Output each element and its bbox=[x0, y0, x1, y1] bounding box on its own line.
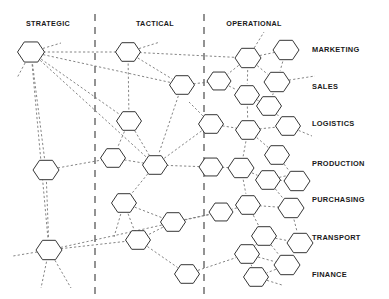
hexagon-node-n10[interactable] bbox=[161, 213, 186, 232]
hexagon-nodes bbox=[18, 40, 314, 286]
stub-edge-s8 bbox=[254, 32, 264, 48]
edge-n10-n11 bbox=[148, 227, 163, 234]
stub-edge-s10 bbox=[299, 130, 312, 136]
hexagon-node-n11[interactable] bbox=[126, 231, 151, 250]
edge-n20-n22 bbox=[257, 138, 269, 148]
hexagon-node-n23[interactable] bbox=[199, 158, 223, 176]
hexagon-node-n22[interactable] bbox=[265, 146, 290, 165]
edge-n1-n3 bbox=[32, 64, 48, 238]
edge-n5-n15 bbox=[193, 82, 208, 84]
edge-n7-n8 bbox=[124, 160, 143, 163]
edge-n1-n6 bbox=[41, 59, 119, 114]
edge-n10-n29 bbox=[184, 214, 210, 219]
edge-n24-n25 bbox=[252, 173, 258, 175]
edge-n4-n13 bbox=[139, 53, 236, 58]
stub-edge-s1 bbox=[43, 43, 61, 48]
stub-edge-s7 bbox=[114, 214, 121, 237]
edge-n8-n23 bbox=[166, 165, 199, 166]
edge-n6-n7 bbox=[118, 132, 125, 148]
hexagon-node-n21[interactable] bbox=[276, 117, 301, 136]
hexagon-node-n28[interactable] bbox=[278, 198, 304, 217]
hexagon-node-n13[interactable] bbox=[235, 48, 261, 67]
hexagon-node-n32[interactable] bbox=[235, 245, 260, 264]
hexagon-node-n20[interactable] bbox=[236, 121, 261, 140]
hexagon-node-n3[interactable] bbox=[36, 240, 62, 259]
edge-n27-n29 bbox=[232, 208, 237, 209]
hexagon-node-n16[interactable] bbox=[264, 72, 290, 91]
hexagon-node-n4[interactable] bbox=[116, 43, 141, 62]
hexagon-node-n30[interactable] bbox=[252, 227, 277, 246]
edge-n5-n8 bbox=[159, 96, 179, 154]
edge-n14-n16 bbox=[280, 62, 283, 71]
edge-n33-n34 bbox=[267, 269, 276, 273]
row-labels: MARKETINGSALESLOGISTICSPRODUCTIONPURCHAS… bbox=[312, 45, 365, 279]
hexagon-node-n26[interactable] bbox=[284, 171, 310, 190]
stub-edge-s12 bbox=[267, 280, 282, 285]
hexagon-node-n17[interactable] bbox=[235, 86, 260, 105]
edge-n20-n21 bbox=[259, 127, 276, 129]
row-label-production: PRODUCTION bbox=[312, 159, 365, 168]
column-label-tactical: TACTICAL bbox=[136, 19, 174, 28]
hexagon-node-n33[interactable] bbox=[274, 255, 300, 274]
edge-n13-n15 bbox=[228, 65, 239, 74]
edge-n27-n28 bbox=[259, 206, 279, 207]
edge-n4-n6 bbox=[128, 64, 129, 110]
edge-n13-n14 bbox=[260, 52, 275, 55]
hexagon-node-n24[interactable] bbox=[228, 158, 254, 177]
hexagon-node-n31[interactable] bbox=[287, 233, 313, 252]
stub-edge-s5 bbox=[55, 260, 71, 288]
edge-n1-n5 bbox=[43, 55, 171, 83]
edge-n18-n21 bbox=[277, 114, 280, 117]
hexagon-node-n25[interactable] bbox=[256, 171, 281, 190]
row-label-transport: TRANSPORT bbox=[312, 233, 361, 242]
edge-n15-n17 bbox=[229, 86, 237, 90]
hexagon-node-n6[interactable] bbox=[117, 112, 142, 131]
hexagon-node-n27[interactable] bbox=[236, 196, 261, 215]
hexagon-node-n19[interactable] bbox=[199, 115, 224, 134]
edge-n30-n33 bbox=[271, 245, 279, 256]
edge-n28-n31 bbox=[294, 220, 297, 232]
hexagon-node-n2[interactable] bbox=[33, 160, 59, 179]
hexagon-node-n8[interactable] bbox=[143, 156, 168, 175]
hexagon-node-n34[interactable] bbox=[244, 268, 269, 287]
stub-edge-s4 bbox=[41, 262, 47, 288]
hexagon-node-n14[interactable] bbox=[273, 40, 299, 59]
edge-n6-n8 bbox=[135, 131, 149, 155]
hexagon-network-diagram: STRATEGICTACTICALOPERATIONAL MARKETINGSA… bbox=[0, 0, 389, 299]
edge-n32-n34 bbox=[251, 265, 252, 267]
hexagon-node-n29[interactable] bbox=[209, 203, 233, 221]
edge-n13-n16 bbox=[257, 66, 268, 75]
hexagon-node-n12[interactable] bbox=[175, 265, 200, 284]
hexagon-node-n7[interactable] bbox=[101, 149, 126, 168]
edge-n9-n11 bbox=[128, 214, 134, 229]
edge-n25-n28 bbox=[275, 189, 283, 199]
row-label-finance: FINANCE bbox=[312, 270, 347, 279]
edge-n30-n32 bbox=[255, 244, 256, 245]
edge-n32-n33 bbox=[258, 257, 275, 262]
network-canvas: STRATEGICTACTICALOPERATIONAL MARKETINGSA… bbox=[0, 0, 389, 299]
edge-n20-n24 bbox=[243, 141, 246, 156]
hexagon-node-n5[interactable] bbox=[170, 76, 195, 95]
edge-n11-n12 bbox=[147, 247, 177, 268]
edge-n1-n2 bbox=[33, 64, 45, 158]
edge-n4-n5 bbox=[138, 58, 172, 79]
row-label-logistics: LOGISTICS bbox=[312, 119, 355, 128]
hexagon-node-n1[interactable] bbox=[18, 42, 45, 62]
column-label-operational: OPERATIONAL bbox=[226, 19, 282, 28]
edge-n19-n20 bbox=[222, 126, 236, 128]
row-label-marketing: MARKETING bbox=[312, 45, 359, 54]
edge-n8-n9 bbox=[131, 174, 147, 194]
edge-n17-n18 bbox=[257, 100, 258, 101]
edge-n27-n30 bbox=[253, 215, 258, 226]
hexagon-node-n9[interactable] bbox=[112, 194, 137, 213]
edge-n8-n19 bbox=[164, 131, 201, 158]
hexagon-node-n18[interactable] bbox=[257, 97, 282, 116]
edge-n24-n27 bbox=[243, 180, 246, 194]
edge-n2-n3 bbox=[46, 182, 48, 238]
hexagon-node-n15[interactable] bbox=[207, 72, 231, 90]
edge-n1-n8 bbox=[40, 60, 146, 157]
column-label-strategic: STRATEGIC bbox=[26, 19, 70, 28]
row-label-sales: SALES bbox=[312, 82, 338, 91]
column-labels: STRATEGICTACTICALOPERATIONAL bbox=[26, 19, 282, 28]
stub-edge-s3 bbox=[13, 252, 37, 256]
